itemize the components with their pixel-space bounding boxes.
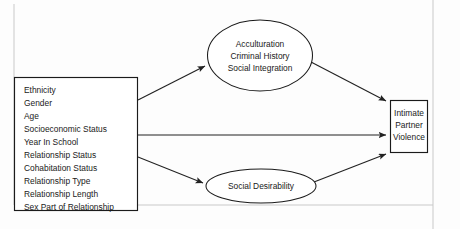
outcome-line-1: Partner xyxy=(395,120,423,130)
predictor-item-1: Gender xyxy=(24,98,52,108)
arrow-predictors-to-social-desirability xyxy=(138,157,203,183)
predictor-item-8: Relationship Length xyxy=(24,189,98,199)
conceptual-model-figure: Ethnicity Gender Age Socioeconomic Statu… xyxy=(0,0,460,229)
predictor-item-5: Relationship Status xyxy=(24,150,96,160)
predictor-item-9: Sex Part of Relationship xyxy=(24,202,114,212)
diagram-canvas: Ethnicity Gender Age Socioeconomic Statu… xyxy=(0,0,460,229)
acculturation-line-1: Criminal History xyxy=(230,51,290,61)
predictor-item-7: Relationship Type xyxy=(24,176,91,186)
predictor-item-0: Ethnicity xyxy=(24,85,56,95)
predictor-item-4: Year In School xyxy=(24,137,78,147)
social-desirability-label: Social Desirability xyxy=(228,181,295,191)
arrow-predictors-to-acculturation xyxy=(138,66,205,100)
arrow-acculturation-to-violence xyxy=(311,62,386,101)
predictor-item-6: Cohabitation Status xyxy=(24,163,97,173)
predictor-item-2: Age xyxy=(24,111,39,121)
acculturation-line-0: Acculturation xyxy=(236,39,285,49)
predictor-item-3: Socioeconomic Status xyxy=(24,124,107,134)
outcome-line-0: Intimate xyxy=(394,108,424,118)
arrow-social-desirability-to-violence xyxy=(314,154,386,182)
outcome-line-2: Violence xyxy=(393,132,425,142)
acculturation-line-2: Social Integration xyxy=(228,63,293,73)
